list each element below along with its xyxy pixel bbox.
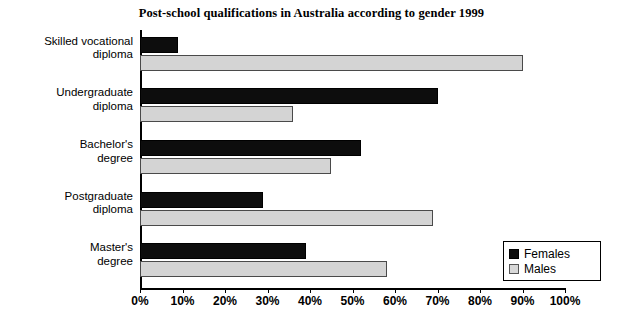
category-label-line: Master's: [0, 241, 133, 255]
category-label-2: Bachelor'sdegree: [0, 138, 133, 165]
legend-item-females: Females: [509, 246, 595, 261]
bar-females-2: [140, 140, 361, 156]
bar-males-2: [140, 158, 331, 174]
x-tick-label-0%: 0%: [131, 294, 148, 308]
x-tick-label-90%: 90%: [510, 294, 534, 308]
x-tick-70%: [438, 288, 439, 293]
category-label-line: Postgraduate: [0, 190, 133, 204]
bar-females-4: [140, 243, 306, 259]
legend-label-males: Males: [524, 262, 556, 276]
x-tick-label-20%: 20%: [213, 294, 237, 308]
category-label-line: diploma: [0, 100, 133, 114]
x-tick-50%: [353, 288, 354, 293]
chart-legend: Females Males: [503, 241, 601, 281]
category-label-1: Undergraduatediploma: [0, 86, 133, 113]
x-tick-label-100%: 100%: [550, 294, 581, 308]
legend-swatch-females-icon: [509, 249, 519, 259]
x-tick-90%: [523, 288, 524, 293]
bar-females-1: [140, 88, 438, 104]
x-tick-label-30%: 30%: [255, 294, 279, 308]
x-tick-80%: [480, 288, 481, 293]
x-tick-label-40%: 40%: [298, 294, 322, 308]
category-label-4: Master'sdegree: [0, 241, 133, 268]
category-label-line: Bachelor's: [0, 138, 133, 152]
x-tick-30%: [268, 288, 269, 293]
legend-label-females: Females: [524, 247, 570, 261]
chart-title: Post-school qualifications in Australia …: [0, 6, 623, 21]
bar-males-4: [140, 261, 387, 277]
category-label-line: degree: [0, 152, 133, 166]
category-label-line: Undergraduate: [0, 86, 133, 100]
x-tick-label-70%: 70%: [425, 294, 449, 308]
bar-females-3: [140, 192, 263, 208]
bar-males-0: [140, 55, 523, 71]
legend-swatch-males-icon: [509, 264, 519, 274]
x-tick-label-50%: 50%: [340, 294, 364, 308]
bar-females-0: [140, 37, 178, 53]
x-tick-20%: [225, 288, 226, 293]
x-tick-0%: [140, 288, 141, 293]
x-tick-label-10%: 10%: [170, 294, 194, 308]
bar-males-1: [140, 106, 293, 122]
x-tick-10%: [183, 288, 184, 293]
category-label-line: diploma: [0, 203, 133, 217]
x-tick-100%: [565, 288, 566, 293]
category-label-0: Skilled vocationaldiploma: [0, 35, 133, 62]
category-label-line: Skilled vocational: [0, 35, 133, 49]
x-tick-60%: [395, 288, 396, 293]
bar-chart: Post-school qualifications in Australia …: [0, 0, 623, 319]
category-label-line: diploma: [0, 48, 133, 62]
category-label-line: degree: [0, 255, 133, 269]
x-tick-40%: [310, 288, 311, 293]
x-tick-label-80%: 80%: [468, 294, 492, 308]
bar-males-3: [140, 210, 433, 226]
category-label-3: Postgraduatediploma: [0, 190, 133, 217]
legend-item-males: Males: [509, 261, 595, 276]
x-tick-label-60%: 60%: [383, 294, 407, 308]
